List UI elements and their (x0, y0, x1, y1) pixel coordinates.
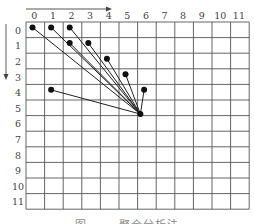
row-label: 10 (12, 181, 24, 192)
grid-diagram: 0123456789101101234567891011 图 …… 聚合分析法 (0, 0, 254, 224)
column-label: 2 (68, 10, 74, 21)
row-label: 3 (15, 72, 21, 83)
connection-line (70, 43, 141, 114)
source-point (48, 87, 54, 93)
column-label: 5 (124, 10, 130, 21)
row-label: 7 (15, 134, 21, 145)
row-label: 8 (15, 150, 21, 161)
column-label: 4 (106, 10, 112, 21)
target-point (137, 111, 143, 117)
source-point (104, 56, 110, 62)
column-label: 8 (180, 10, 186, 21)
connection-line (51, 90, 140, 114)
connection-line (33, 27, 141, 114)
figure-caption: 图 …… 聚合分析法 (0, 216, 254, 224)
column-label: 11 (233, 10, 245, 21)
row-label: 1 (15, 40, 21, 51)
column-label: 0 (31, 10, 37, 21)
row-label: 11 (12, 196, 24, 207)
y-axis-arrowhead-icon (4, 74, 9, 80)
source-point (67, 40, 73, 46)
source-point (67, 24, 73, 30)
source-point (85, 40, 91, 46)
source-point (141, 87, 147, 93)
column-label: 1 (50, 10, 56, 21)
source-point (48, 24, 54, 30)
column-label: 9 (199, 10, 205, 21)
row-label: 0 (15, 25, 21, 36)
row-label: 4 (15, 87, 21, 98)
row-label: 6 (15, 118, 21, 129)
source-point (123, 71, 129, 77)
connection-line (140, 90, 144, 114)
column-label: 7 (161, 10, 167, 21)
row-label: 9 (15, 165, 21, 176)
row-label: 5 (15, 103, 21, 114)
connection-line (70, 27, 141, 114)
row-label: 2 (15, 56, 21, 67)
grid-canvas: 0123456789101101234567891011 (0, 0, 254, 224)
column-label: 10 (214, 10, 226, 21)
column-label: 3 (87, 10, 93, 21)
column-label: 6 (143, 10, 149, 21)
source-point (30, 24, 36, 30)
